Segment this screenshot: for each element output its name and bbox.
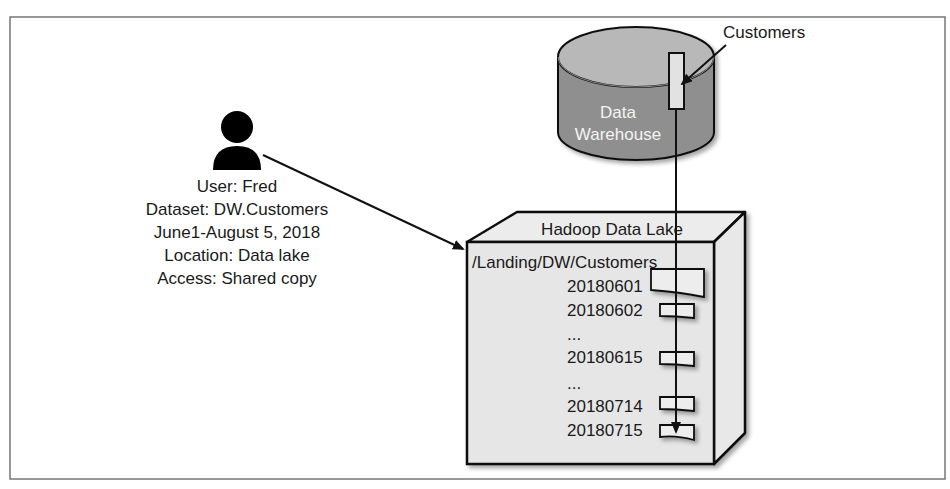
customers-table xyxy=(669,53,684,109)
partition-label: 20180615 xyxy=(567,348,643,367)
user-line: User: Fred xyxy=(197,177,277,196)
partition-label: 20180715 xyxy=(567,421,643,440)
partition-label: 20180602 xyxy=(567,301,643,320)
diagram-canvas: User: Fred Dataset: DW.Customers June1-A… xyxy=(0,0,950,489)
partition-ellipsis: ... xyxy=(567,374,581,393)
location-line: Location: Data lake xyxy=(164,246,310,265)
partition-label: 20180601 xyxy=(567,277,643,296)
partition-list: 20180601 20180602 ... 20180615 ... 20180… xyxy=(567,277,643,440)
person-icon xyxy=(213,111,261,170)
user-info: User: Fred Dataset: DW.Customers June1-A… xyxy=(146,177,328,288)
lake-path: /Landing/DW/Customers xyxy=(472,253,657,272)
access-line: Access: Shared copy xyxy=(157,269,317,288)
daterange-line: June1-August 5, 2018 xyxy=(154,223,320,242)
warehouse-label-line2: Warehouse xyxy=(575,125,661,144)
customers-label: Customers xyxy=(723,23,805,42)
warehouse-label-line1: Data xyxy=(600,103,636,122)
partition-ellipsis: ... xyxy=(567,325,581,344)
dataset-line: Dataset: DW.Customers xyxy=(146,200,328,219)
partition-label: 20180714 xyxy=(567,397,643,416)
lake-title: Hadoop Data Lake xyxy=(541,220,683,239)
